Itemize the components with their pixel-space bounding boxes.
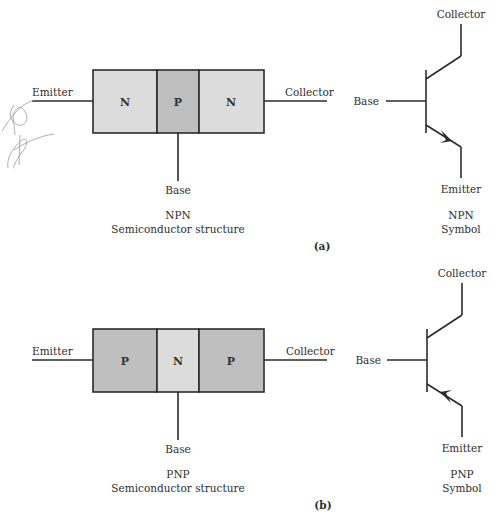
caption-b: (b): [314, 499, 331, 511]
symbol-subtitle: Symbol: [441, 223, 481, 235]
transistor-diagram: Emitter N P N Collector Base NPN Semicon…: [0, 0, 498, 521]
base-label: Base: [165, 443, 191, 455]
pnp-symbol: Collector Base Emitter PNP Symbol: [355, 267, 487, 494]
structure-subtitle: Semiconductor structure: [111, 482, 244, 494]
panel-a: Emitter N P N Collector Base NPN Semicon…: [32, 8, 486, 252]
segment-label: N: [226, 96, 236, 109]
pnp-structure: Emitter P N P Collector Base PNP Semicon…: [32, 329, 336, 494]
segment-label: P: [227, 355, 235, 368]
pencil-scribble: [2, 100, 54, 168]
symbol-collector-label: Collector: [438, 267, 488, 279]
emitter-label: Emitter: [32, 86, 74, 98]
symbol-title: NPN: [448, 209, 473, 221]
segment-label: N: [173, 355, 183, 368]
symbol-base-label: Base: [353, 95, 379, 107]
collector-diagonal: [426, 56, 461, 79]
symbol-subtitle: Symbol: [442, 482, 482, 494]
collector-label: Collector: [286, 345, 336, 357]
structure-subtitle: Semiconductor structure: [111, 223, 244, 235]
emitter-label: Emitter: [32, 345, 74, 357]
symbol-collector-label: Collector: [437, 8, 487, 20]
symbol-title: PNP: [450, 468, 473, 480]
segment-label: P: [174, 96, 182, 109]
npn-symbol: Collector Base Emitter NPN Symbol: [353, 8, 486, 235]
structure-title: PNP: [166, 468, 189, 480]
arrow-out-icon: [440, 130, 452, 143]
segment-label: N: [120, 96, 130, 109]
symbol-emitter-label: Emitter: [441, 183, 483, 195]
arrow-in-icon: [440, 390, 452, 403]
caption-a: (a): [314, 240, 331, 252]
emitter-diagonal: [426, 125, 461, 147]
segment-label: P: [121, 355, 129, 368]
panel-b: Emitter P N P Collector Base PNP Semicon…: [32, 267, 487, 511]
collector-diagonal: [427, 315, 462, 338]
npn-structure: Emitter N P N Collector Base NPN Semicon…: [32, 70, 335, 235]
base-label: Base: [165, 184, 191, 196]
collector-label: Collector: [285, 86, 335, 98]
symbol-emitter-label: Emitter: [442, 442, 484, 454]
structure-title: NPN: [165, 209, 190, 221]
symbol-base-label: Base: [355, 354, 381, 366]
